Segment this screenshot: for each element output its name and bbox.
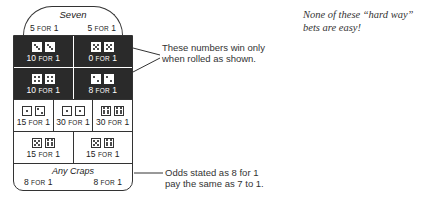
sidebar-note: None of these “hard way” bets are easy! [303, 8, 413, 34]
hard-way-note: These numbers win only when rolled as sh… [162, 42, 265, 64]
odds-note: Odds stated as 8 for 1 pay the same as 7… [165, 167, 264, 189]
